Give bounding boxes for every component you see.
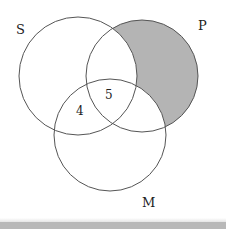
set-p-label: P: [198, 18, 207, 33]
venn-diagram: S P M 5 4: [0, 0, 226, 229]
set-m-label: M: [142, 195, 155, 210]
region-value-sm: 4: [76, 104, 84, 118]
bottom-bar: [0, 222, 226, 229]
set-s-label: S: [16, 22, 25, 37]
region-value-spm: 5: [105, 88, 113, 102]
